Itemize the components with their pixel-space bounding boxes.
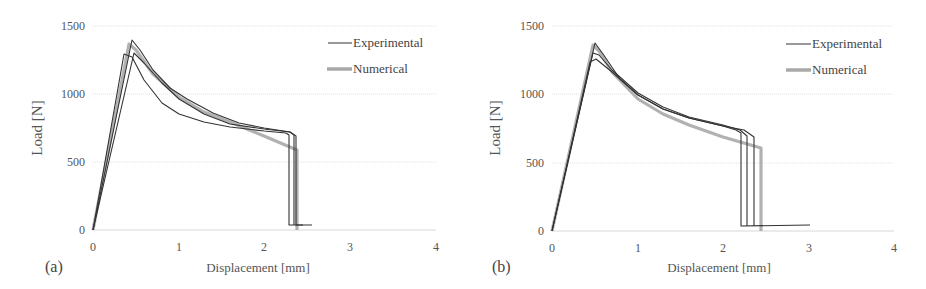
x-tick: 4 [433, 240, 439, 254]
x-ticks-b: 0 1 2 3 4 [549, 241, 897, 255]
x-tick: 1 [635, 241, 641, 255]
x-axis-title-a: Displacement [mm] [206, 260, 310, 275]
experimental-curve-b2 [552, 53, 747, 231]
y-ticks-a: 1500 1000 500 0 [61, 19, 85, 237]
x-tick: 3 [347, 240, 353, 254]
chart-b: 1500 1000 500 0 0 1 2 3 4 Displacement [… [487, 19, 897, 276]
legend-numerical-label: Numerical [812, 62, 867, 77]
y-tick: 0 [538, 224, 544, 238]
legend-numerical-label: Numerical [353, 61, 408, 76]
y-tick: 0 [79, 223, 85, 237]
legend-experimental-label: Experimental [812, 36, 882, 51]
y-ticks-b: 1500 1000 500 0 [520, 19, 544, 238]
chart-a: 1500 1000 500 0 0 1 2 3 4 Displacement [… [29, 19, 439, 276]
x-tick: 2 [261, 240, 267, 254]
x-axis-title-b: Displacement [mm] [667, 260, 771, 275]
y-axis-title-b: Load [N] [487, 100, 503, 155]
x-ticks-a: 0 1 2 3 4 [90, 240, 439, 254]
x-tick: 0 [549, 241, 555, 255]
x-tick: 4 [891, 241, 897, 255]
panel-label-a: (a) [45, 258, 63, 276]
y-tick: 1000 [520, 87, 544, 101]
x-tick: 1 [176, 240, 182, 254]
y-tick: 500 [526, 156, 544, 170]
figure: 1500 1000 500 0 0 1 2 3 4 Displacement [… [0, 0, 926, 289]
x-tick: 0 [90, 240, 96, 254]
y-tick: 1000 [61, 87, 85, 101]
legend-a: Experimental Numerical [327, 35, 423, 76]
series-a [93, 40, 312, 230]
series-b [552, 43, 810, 231]
y-axis-title-a: Load [N] [29, 100, 45, 155]
numerical-curve-a [93, 44, 297, 230]
x-tick: 2 [720, 241, 726, 255]
numerical-curve-b [552, 45, 761, 231]
y-tick: 500 [67, 155, 85, 169]
panel-label-b: (b) [492, 258, 511, 276]
legend-b: Experimental Numerical [786, 36, 882, 77]
y-tick: 1500 [520, 19, 544, 33]
experimental-curve-b1 [552, 59, 810, 231]
x-tick: 3 [806, 241, 812, 255]
y-tick: 1500 [61, 19, 85, 33]
legend-experimental-label: Experimental [353, 35, 423, 50]
